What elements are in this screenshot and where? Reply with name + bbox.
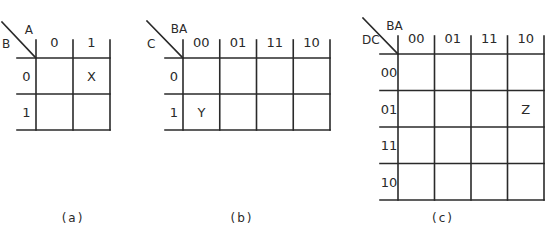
- column-header: 11: [481, 31, 498, 46]
- figure-caption: (c): [432, 211, 454, 225]
- column-variable-label: BA: [171, 22, 188, 36]
- kmap-b: BAC0001111001Y(b): [147, 21, 330, 225]
- row-variable-label: B: [2, 37, 10, 51]
- cell-value: Z: [521, 102, 530, 117]
- karnaugh-maps-figure: AB0101X(a)BAC0001111001Y(b)BADC000111100…: [0, 0, 557, 245]
- column-header: 01: [230, 35, 247, 50]
- cell-value: Y: [196, 105, 205, 120]
- row-header: 10: [381, 175, 398, 190]
- column-header: 0: [50, 35, 58, 50]
- row-header: 11: [381, 138, 398, 153]
- kmap-c: BADC0001111000011110Z(c): [362, 18, 544, 225]
- figure-caption: (a): [62, 211, 85, 225]
- figure-svg: AB0101X(a)BAC0001111001Y(b)BADC000111100…: [0, 0, 557, 245]
- row-header: 1: [22, 105, 30, 120]
- cell-value: X: [87, 69, 96, 84]
- row-header: 0: [22, 69, 30, 84]
- column-variable-label: BA: [386, 19, 403, 33]
- column-variable-label: A: [25, 23, 34, 37]
- column-header: 00: [193, 35, 210, 50]
- column-header: 11: [267, 35, 284, 50]
- column-header: 1: [87, 35, 95, 50]
- column-header: 10: [303, 35, 320, 50]
- row-header: 00: [381, 65, 398, 80]
- kmap-a: AB0101X(a): [2, 22, 110, 225]
- column-header: 10: [517, 31, 534, 46]
- row-header: 1: [170, 105, 178, 120]
- figure-caption: (b): [231, 211, 254, 225]
- row-variable-label: DC: [362, 33, 380, 47]
- column-header: 01: [444, 31, 461, 46]
- row-header: 01: [381, 102, 398, 117]
- row-header: 0: [170, 69, 178, 84]
- column-header: 00: [408, 31, 425, 46]
- row-variable-label: C: [147, 37, 155, 51]
